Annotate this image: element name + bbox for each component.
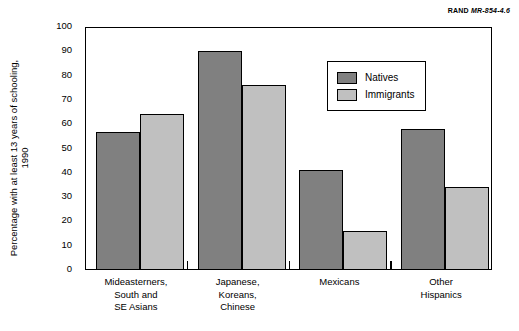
x-axis-label: Japanese, Koreans, Chinese xyxy=(187,276,289,314)
y-axis-tick: 70 xyxy=(0,100,85,101)
y-axis-tick: 0 xyxy=(0,270,85,271)
y-axis-tick: 20 xyxy=(0,221,85,222)
y-axis-tick: 30 xyxy=(0,197,85,198)
y-axis-tick: 10 xyxy=(0,246,85,247)
bar-natives xyxy=(299,170,343,270)
y-axis-tick-label: 50 xyxy=(61,142,72,153)
y-axis-tick-label: 80 xyxy=(61,69,72,80)
bar-natives xyxy=(198,51,242,270)
source-credit-id: MR-854-4.6 xyxy=(471,7,510,14)
legend-item: Immigrants xyxy=(337,86,414,103)
legend-swatch-natives xyxy=(337,72,357,84)
y-axis-tick: 40 xyxy=(0,173,85,174)
source-credit-prefix: RAND xyxy=(448,7,469,14)
chart-legend: NativesImmigrants xyxy=(327,61,426,111)
y-axis-tick-label: 30 xyxy=(61,190,72,201)
bar-immigrants xyxy=(445,187,489,270)
x-axis-label: Other Hispanics xyxy=(390,276,492,301)
y-axis-tick-label: 0 xyxy=(67,263,72,274)
x-axis-labels: Mideasterners, South and SE AsiansJapane… xyxy=(85,276,492,326)
y-axis-tick-label: 70 xyxy=(61,93,72,104)
y-axis-tick-label: 10 xyxy=(61,239,72,250)
x-axis-group-separator xyxy=(390,261,391,270)
legend-swatch-immigrants xyxy=(337,89,357,101)
legend-label: Immigrants xyxy=(365,89,414,100)
x-axis-group-separator xyxy=(187,261,188,270)
y-axis-tick-label: 60 xyxy=(61,117,72,128)
source-credit: RAND MR-854-4.6 xyxy=(448,7,510,14)
legend-item: Natives xyxy=(337,69,414,86)
x-axis-label: Mideasterners, South and SE Asians xyxy=(85,276,187,314)
y-axis-tick-label: 40 xyxy=(61,166,72,177)
y-axis-tick-label: 100 xyxy=(56,20,72,31)
y-axis-tick: 50 xyxy=(0,149,85,150)
y-axis-tick: 60 xyxy=(0,124,85,125)
bar-group xyxy=(96,27,184,270)
bar-immigrants xyxy=(343,231,387,270)
y-axis-tick: 80 xyxy=(0,76,85,77)
bar-immigrants xyxy=(140,114,184,270)
bar-immigrants xyxy=(242,85,286,270)
y-axis-tick-label: 90 xyxy=(61,44,72,55)
x-axis-group-separator xyxy=(289,261,290,270)
y-axis-tick: 90 xyxy=(0,51,85,52)
bar-group xyxy=(198,27,286,270)
bar-natives xyxy=(401,129,445,270)
x-axis-label: Mexicans xyxy=(289,276,391,289)
y-axis-tick: 100 xyxy=(0,27,85,28)
y-axis-title: Percentage with at least 13 years of sch… xyxy=(8,36,24,280)
bars-layer xyxy=(85,27,492,270)
y-axis-tick-label: 20 xyxy=(61,214,72,225)
bar-natives xyxy=(96,132,140,271)
legend-label: Natives xyxy=(365,72,398,83)
